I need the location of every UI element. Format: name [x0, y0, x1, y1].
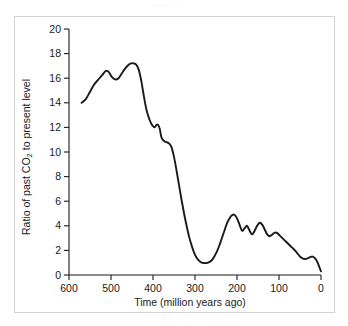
co2-ratio-line-chart: 02468101214161820 6005004003002001000 Ti…	[15, 17, 334, 312]
y-axis-tick-label: 14	[49, 96, 61, 108]
y-axis-tick-label: 6	[55, 195, 61, 207]
y-axis-tick-label: 8	[55, 170, 61, 182]
x-axis-tick-label: 100	[270, 282, 288, 294]
x-axis-title: Time (million years ago)	[134, 296, 246, 308]
y-axis-title: Ratio of past CO2 to present level	[20, 79, 34, 235]
y-axis-tick-label: 18	[49, 47, 61, 59]
data-series-layer	[82, 63, 321, 271]
x-axis-tick-label: 300	[186, 282, 204, 294]
y-axis-tick-label: 4	[55, 219, 61, 231]
y-axis-title-after: to present level	[20, 79, 32, 153]
figure-frame: 02468101214161820 6005004003002001000 Ti…	[14, 16, 335, 313]
svg-text:Ratio of past CO2 to present l: Ratio of past CO2 to present level	[20, 79, 34, 235]
y-axis-tick-label: 12	[49, 121, 61, 133]
y-axis-tick-label: 0	[55, 269, 61, 281]
x-axis: 6005004003002001000	[60, 275, 324, 294]
y-axis-tick-label: 20	[49, 23, 61, 35]
top-cropped-text-artifact: ........ ... ...	[152, 1, 342, 7]
figure-root: ........ ... ... 02468101214161820 60050…	[0, 0, 348, 326]
y-axis-tick-label: 2	[55, 244, 61, 256]
y-axis-tick-label: 10	[49, 146, 61, 158]
x-axis-tick-label: 400	[144, 282, 162, 294]
x-axis-tick-label: 600	[60, 282, 78, 294]
x-axis-tick-label: 0	[318, 282, 324, 294]
y-axis-title-before: Ratio of past CO	[20, 157, 32, 235]
data-series-line	[82, 63, 321, 271]
y-axis-tick-label: 16	[49, 72, 61, 84]
x-axis-tick-label: 500	[102, 282, 120, 294]
y-axis: 02468101214161820	[49, 23, 69, 281]
x-axis-tick-label: 200	[228, 282, 246, 294]
